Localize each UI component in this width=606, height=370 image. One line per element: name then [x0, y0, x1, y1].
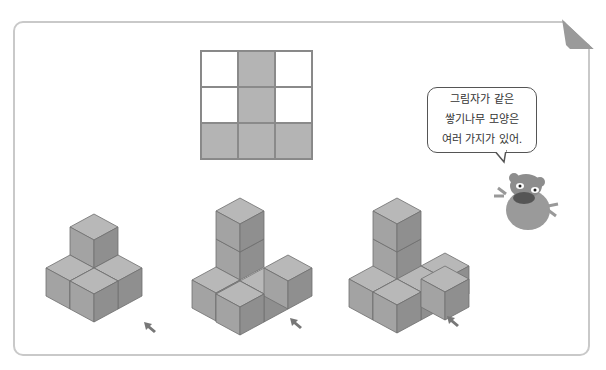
figure-1 — [46, 214, 142, 322]
figure-2 — [192, 198, 312, 335]
monster-mascot-icon — [494, 173, 558, 230]
cube-figures — [0, 0, 606, 370]
figure-3 — [349, 198, 469, 333]
